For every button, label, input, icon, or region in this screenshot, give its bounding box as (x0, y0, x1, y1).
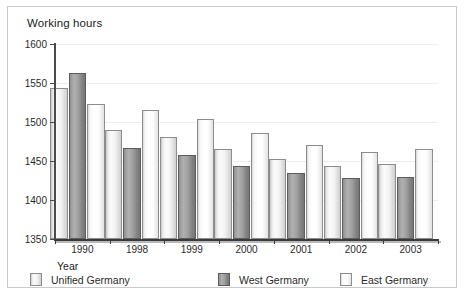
legend-item-1[interactable]: West Germany (218, 273, 309, 286)
bar-east-2002 (361, 152, 379, 239)
y-axis-tick-label: 1350 (25, 234, 47, 245)
x-axis-tick (164, 239, 165, 244)
x-axis-tick-label: 2000 (235, 244, 257, 255)
y-axis-tick (50, 161, 55, 162)
y-axis-tick-label: 1450 (25, 156, 47, 167)
gridline (55, 83, 438, 84)
bar-east-1999 (197, 119, 215, 239)
bar-unified-2001 (269, 159, 287, 239)
y-axis-tick-label: 1400 (25, 195, 47, 206)
x-axis-line (54, 239, 439, 241)
y-axis-tick-label: 1500 (25, 117, 47, 128)
bar-unified-2003 (378, 164, 396, 239)
bar-unified-2000 (214, 149, 232, 239)
x-axis-tick-label: 1990 (71, 244, 93, 255)
y-axis-tick (50, 83, 55, 84)
bar-west-1998 (123, 148, 141, 239)
x-axis-tick (438, 239, 439, 244)
x-axis-tick-label: 2002 (345, 244, 367, 255)
x-axis-tick (219, 239, 220, 244)
y-axis-line (54, 43, 56, 240)
x-axis-tick (110, 239, 111, 244)
plot-area: 135014001450150015501600 199019981999200… (55, 44, 438, 239)
x-axis-tick-label: 2001 (290, 244, 312, 255)
bar-east-2000 (251, 133, 269, 239)
bar-east-1990 (87, 104, 105, 239)
x-axis-title: Year (57, 260, 78, 272)
bar-east-2001 (306, 145, 324, 239)
bar-west-2003 (397, 177, 415, 239)
legend-swatch-icon (218, 273, 230, 286)
y-axis-tick (50, 44, 55, 45)
y-axis-tick-label: 1550 (25, 78, 47, 89)
legend-swatch-icon (30, 273, 42, 286)
y-axis-tick-label: 1600 (25, 39, 47, 50)
x-axis-tick-label: 1998 (126, 244, 148, 255)
bar-unified-1990 (50, 88, 68, 239)
chart-title: Working hours (27, 17, 102, 29)
bar-west-2000 (233, 166, 251, 239)
x-axis-tick-label: 1999 (181, 244, 203, 255)
x-axis-tick (383, 239, 384, 244)
gridline (55, 44, 438, 45)
legend-item-0[interactable]: Unified Germany (30, 273, 130, 286)
bar-west-2001 (287, 173, 305, 239)
gridline (55, 122, 438, 123)
legend-label: East Germany (361, 274, 428, 286)
x-axis-tick (329, 239, 330, 244)
bar-unified-1998 (105, 130, 123, 239)
x-axis-tick (274, 239, 275, 244)
bar-east-2003 (415, 149, 433, 239)
bar-unified-1999 (160, 137, 178, 239)
y-axis-tick (50, 200, 55, 201)
bar-west-2002 (342, 178, 360, 239)
chart-legend: Unified GermanyWest GermanyEast Germany (30, 273, 440, 289)
legend-label: West Germany (239, 274, 309, 286)
bar-west-1990 (69, 73, 87, 239)
chart-figure: Working hours 135014001450150015501600 1… (7, 6, 457, 288)
bar-unified-2002 (324, 166, 342, 239)
y-axis-tick (50, 122, 55, 123)
legend-swatch-icon (340, 273, 352, 286)
bar-east-1998 (142, 110, 160, 239)
bar-west-1999 (178, 155, 196, 239)
x-axis-tick-label: 2003 (400, 244, 422, 255)
legend-item-2[interactable]: East Germany (340, 273, 428, 286)
x-axis-tick (55, 239, 56, 244)
legend-label: Unified Germany (51, 274, 130, 286)
